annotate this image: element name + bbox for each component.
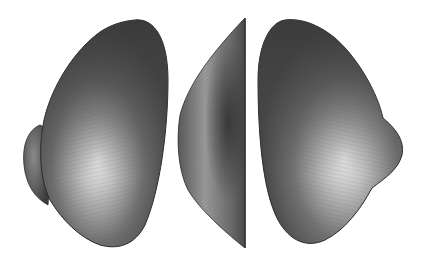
right-view xyxy=(258,20,403,244)
shell-figure-svg xyxy=(0,0,424,267)
left-view xyxy=(24,20,168,247)
shell-figure xyxy=(0,0,424,267)
side-view xyxy=(178,18,245,248)
